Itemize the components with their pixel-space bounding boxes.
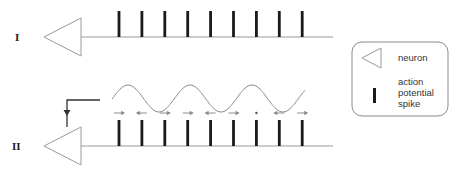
legend: neuron action potential spike: [352, 42, 448, 116]
spike-ii-3: [163, 120, 166, 146]
phase-arrow-left-icon: [273, 111, 284, 115]
spike-ii-6: [232, 120, 235, 146]
spike-i-4: [186, 11, 189, 37]
spike-train-ii: [118, 120, 304, 146]
row-ii: II: [12, 85, 333, 165]
spike-train-i: [118, 11, 304, 37]
row-ii-label: II: [12, 140, 21, 152]
phase-arrow-right-icon: [183, 111, 194, 115]
feedback-arrow-icon: [64, 110, 71, 116]
legend-spike-label-line-2: potential: [398, 87, 434, 98]
spike-i-5: [209, 11, 212, 37]
row-i-label: I: [15, 31, 19, 43]
spike-ii-5: [209, 120, 212, 146]
spike-i-2: [141, 11, 144, 37]
feedback-path: [64, 100, 101, 127]
spike-ii-7: [255, 120, 258, 146]
spike-ii-1: [118, 120, 121, 146]
spike-i-9: [301, 11, 304, 37]
spike-i-7: [255, 11, 258, 37]
neuron-ii-icon: [44, 127, 81, 165]
spike-i-8: [278, 11, 281, 37]
legend-neuron-label: neuron: [398, 52, 428, 63]
spike-i-6: [232, 11, 235, 37]
phase-arrow-right-icon: [229, 111, 240, 115]
spike-ii-4: [186, 120, 189, 146]
phase-arrow-left-icon: [136, 111, 147, 115]
spike-ii-2: [141, 120, 144, 146]
feedback-line: [67, 100, 100, 127]
phase-arrow-right-icon: [297, 111, 308, 115]
legend-spike-label-line-1: action: [398, 76, 423, 87]
neuron-i-icon: [44, 18, 81, 56]
legend-spike-label-line-3: spike: [398, 98, 420, 109]
row-i: I: [15, 11, 333, 56]
spike-ii-8: [278, 120, 281, 146]
legend-spike-icon: [373, 88, 376, 103]
phase-arrow-right-icon: [114, 111, 125, 115]
phase-dot-7: [255, 112, 257, 114]
synchrony-diagram: I II neuron action potential spike: [0, 0, 465, 173]
spike-ii-9: [301, 120, 304, 146]
oscillation-wave: [112, 85, 305, 112]
phase-arrow-left-icon: [205, 111, 216, 115]
spike-i-3: [163, 11, 166, 37]
spike-i-1: [118, 11, 121, 37]
